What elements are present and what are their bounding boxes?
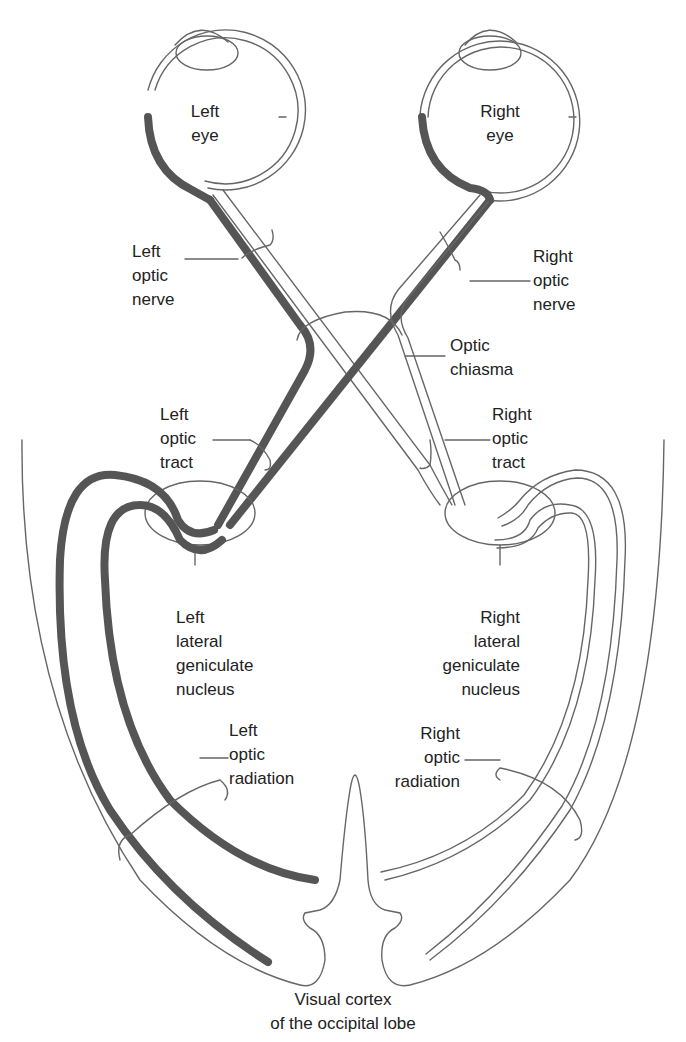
left-radiation-outer	[60, 470, 270, 943]
label-optic-chiasma: Optic chiasma	[450, 334, 513, 382]
right-lgn-ellipse	[445, 481, 555, 545]
left-nerve-dark	[210, 200, 310, 525]
caption-visual-cortex: Visual cortex of the occipital lobe	[243, 988, 443, 1036]
label-right-optic-radiation: Right optic radiation	[380, 722, 460, 794]
visual-pathway-diagram	[0, 0, 686, 1042]
label-left-eye: Left eye	[165, 100, 245, 148]
label-left-optic-radiation: Left optic radiation	[229, 719, 294, 791]
label-right-lgn: Right lateral geniculate nucleus	[420, 606, 520, 702]
label-right-optic-tract: Right optic tract	[492, 403, 532, 475]
label-left-lgn: Left lateral geniculate nucleus	[176, 606, 254, 702]
label-left-optic-nerve: Left optic nerve	[132, 240, 175, 312]
label-left-optic-tract: Left optic tract	[160, 403, 196, 475]
label-right-optic-nerve: Right optic nerve	[533, 245, 576, 317]
label-right-eye: Right eye	[460, 100, 540, 148]
left-hemisphere-outline	[22, 440, 664, 986]
